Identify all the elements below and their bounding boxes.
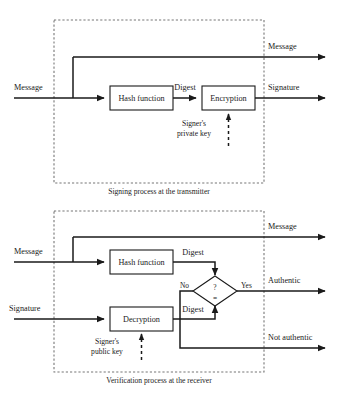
signing-encryption-label: Encryption — [210, 94, 246, 103]
verification-region-caption: Verification process at the receiver — [106, 376, 212, 385]
verification-no-branch-label: No — [180, 281, 189, 290]
verification-public-key-label-line1: Signer's — [95, 337, 119, 346]
verification-hash-function-label: Hash function — [118, 258, 164, 267]
verification-lower-digest-label: Digest — [182, 305, 204, 314]
signing-private-key-label-line2: private key — [177, 129, 211, 138]
verification-not-authentic-output-label: Not authentic — [268, 333, 313, 342]
signing-digest-label: Digest — [174, 83, 196, 92]
verification-signature-input-label: Signature — [9, 304, 41, 313]
verification-upper-digest-line — [173, 262, 215, 275]
signing-process-group: Hash function Digest Encryption Signer's… — [14, 20, 325, 196]
verification-public-key-label-line2: public key — [91, 347, 123, 356]
verification-authentic-output-label: Authentic — [268, 276, 301, 285]
signing-private-key-label-line1: Signer's — [182, 119, 206, 128]
signing-region-caption: Signing process at the transmitter — [108, 187, 210, 196]
verification-comparator-equals: = — [213, 294, 217, 303]
verification-comparator-question-mark: ? — [213, 283, 216, 292]
figure-root: Hash function Digest Encryption Signer's… — [0, 0, 339, 399]
verification-yes-branch-label: Yes — [241, 281, 252, 290]
signing-message-output-label: Message — [268, 42, 297, 51]
signing-signature-output-label: Signature — [268, 83, 300, 92]
signing-message-input-label: Message — [14, 83, 43, 92]
verification-process-group: Hash function Digest Decryption Digest S… — [9, 211, 325, 385]
verification-message-input-label: Message — [14, 247, 43, 256]
signing-hash-function-label: Hash function — [118, 94, 164, 103]
verification-decryption-label: Decryption — [123, 315, 160, 324]
verification-upper-digest-label: Digest — [182, 248, 204, 257]
verification-message-output-label: Message — [268, 222, 297, 231]
